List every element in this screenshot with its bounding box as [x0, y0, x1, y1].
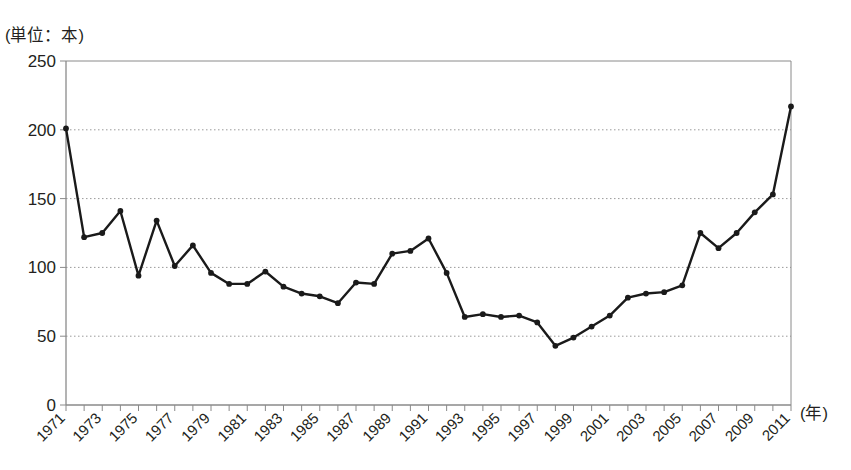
data-point-marker — [190, 242, 196, 248]
series-line — [66, 106, 791, 345]
data-point-marker — [172, 263, 178, 269]
gridlines-group — [66, 130, 791, 336]
axes-group — [60, 61, 791, 405]
chart-figure: (単位：本) (年) 050100150200250 1971197319751… — [0, 0, 851, 470]
y-tick-label: 150 — [28, 190, 56, 209]
y-tick-label: 100 — [28, 258, 56, 277]
data-point-marker — [444, 270, 450, 276]
x-tick-marks-group — [66, 405, 791, 411]
y-tick-labels-group: 050100150200250 — [28, 52, 56, 415]
data-point-marker — [643, 291, 649, 297]
data-point-marker — [154, 218, 160, 224]
x-tick-label: 1997 — [504, 409, 540, 445]
data-point-marker — [99, 230, 105, 236]
line-chart-plot: 050100150200250 197119731975197719791981… — [0, 0, 851, 470]
data-point-marker — [281, 284, 287, 290]
y-tick-label: 250 — [28, 52, 56, 71]
data-point-marker — [697, 230, 703, 236]
data-point-marker — [770, 192, 776, 198]
data-point-marker — [389, 251, 395, 257]
x-tick-label: 1985 — [286, 409, 322, 445]
x-tick-label: 1999 — [540, 409, 576, 445]
x-tick-labels-group: 1971197319751977197919811983198519871989… — [33, 409, 794, 445]
x-tick-label: 2005 — [649, 409, 685, 445]
x-tick-label: 1995 — [468, 409, 504, 445]
data-point-marker — [426, 236, 432, 242]
x-tick-label: 1993 — [431, 409, 467, 445]
data-point-marker — [661, 289, 667, 295]
data-point-marker — [317, 293, 323, 299]
data-point-marker — [734, 230, 740, 236]
data-point-marker — [679, 282, 685, 288]
data-point-marker — [117, 208, 123, 214]
y-tick-label: 200 — [28, 121, 56, 140]
x-tick-label: 1975 — [105, 409, 141, 445]
x-tick-label: 2009 — [721, 409, 757, 445]
data-point-marker — [226, 281, 232, 287]
data-point-marker — [262, 269, 268, 275]
x-tick-label: 1971 — [33, 409, 69, 445]
x-tick-label: 1977 — [141, 409, 177, 445]
data-point-marker — [63, 126, 69, 132]
y-axis-unit-label: (単位：本) — [5, 22, 84, 46]
data-point-marker — [589, 324, 595, 330]
chart-title — [0, 0, 851, 5]
x-tick-label: 1987 — [323, 409, 359, 445]
x-tick-label: 1983 — [250, 409, 286, 445]
data-point-marker — [208, 270, 214, 276]
data-point-marker — [136, 273, 142, 279]
data-point-marker — [516, 313, 522, 319]
x-tick-label: 1991 — [395, 409, 431, 445]
x-tick-label: 1979 — [178, 409, 214, 445]
data-point-marker — [462, 314, 468, 320]
data-point-marker — [571, 335, 577, 341]
data-point-marker — [625, 295, 631, 301]
data-point-marker — [716, 245, 722, 251]
data-point-marker — [788, 104, 794, 110]
data-series-group — [66, 106, 791, 345]
y-tick-label: 50 — [37, 327, 56, 346]
data-point-marker — [335, 300, 341, 306]
data-point-marker — [244, 281, 250, 287]
data-point-marker — [407, 248, 413, 254]
x-tick-label: 1973 — [69, 409, 105, 445]
data-point-marker — [299, 291, 305, 297]
x-tick-label: 2011 — [758, 409, 793, 444]
data-point-marker — [752, 209, 758, 215]
data-point-marker — [371, 281, 377, 287]
data-markers-group — [63, 104, 794, 349]
x-axis-unit-label: (年) — [800, 400, 828, 424]
x-tick-label: 1989 — [359, 409, 395, 445]
data-point-marker — [81, 234, 87, 240]
data-point-marker — [480, 311, 486, 317]
x-tick-label: 2007 — [685, 409, 721, 445]
data-point-marker — [353, 280, 359, 286]
x-tick-label: 2001 — [576, 409, 612, 445]
data-point-marker — [552, 343, 558, 349]
data-point-marker — [498, 314, 504, 320]
data-point-marker — [534, 320, 540, 326]
x-tick-label: 1981 — [214, 409, 250, 445]
data-point-marker — [607, 313, 613, 319]
x-tick-label: 2003 — [613, 409, 649, 445]
